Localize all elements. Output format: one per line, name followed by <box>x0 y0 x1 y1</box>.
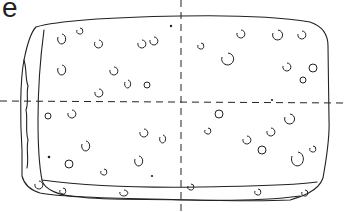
slab-bottom-crust <box>42 180 300 200</box>
pores <box>35 28 317 196</box>
slab-front-face <box>38 30 317 187</box>
sponge-sketch <box>0 0 345 212</box>
horizontal-dashed-line <box>0 101 345 103</box>
slab-outer-outline <box>21 16 329 201</box>
slab-left-edge <box>24 60 28 168</box>
